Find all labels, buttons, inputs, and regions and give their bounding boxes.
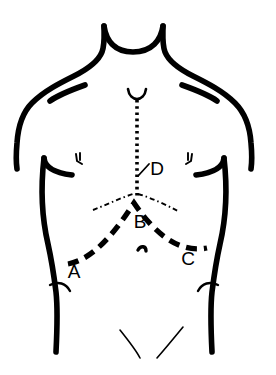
incision-label-a: A: [68, 261, 81, 282]
incision-label-b: B: [134, 211, 147, 232]
torso-diagram-svg: A B C D: [0, 0, 276, 375]
incision-label-c: C: [181, 248, 195, 269]
incision-label-d: D: [150, 158, 164, 179]
anatomy-figure: A B C D: [0, 0, 276, 375]
